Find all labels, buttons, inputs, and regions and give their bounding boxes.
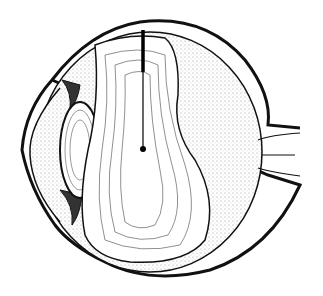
- eye-cross-section-drawing: [0, 0, 323, 296]
- optic-nerve: [258, 133, 300, 176]
- eye-illustration: [0, 0, 323, 296]
